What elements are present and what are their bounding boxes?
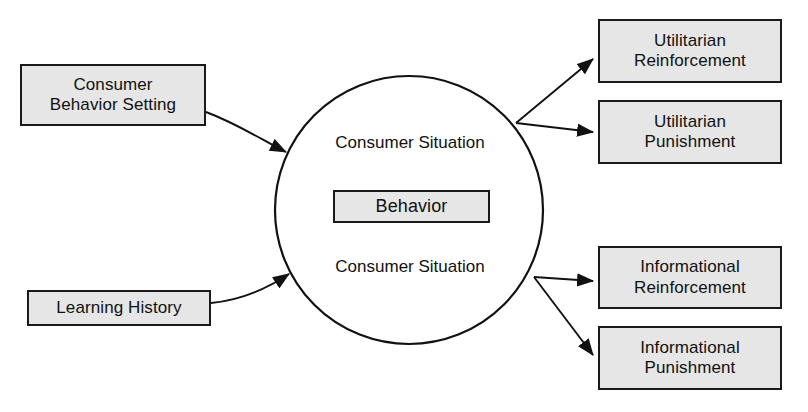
node-label: Informational Reinforcement [600,257,780,297]
node-label-line-1: Learning History [29,298,209,318]
node-label-line-1: Behavior [335,196,488,217]
node-label-line-2: Behavior Setting [22,95,204,115]
node-label-line-2: Reinforcement [600,278,780,298]
node-label-line-1: Informational [600,338,780,358]
edge-circle-to-informational-reinforcement [534,277,593,281]
node-label-line-2: Punishment [600,358,780,378]
node-label: Consumer Behavior Setting [22,75,204,115]
label-consumer-situation-bottom: Consumer Situation [300,257,520,277]
node-utilitarian-reinforcement[interactable]: Utilitarian Reinforcement [598,19,782,83]
node-label: Utilitarian Reinforcement [600,31,780,71]
node-label: Informational Punishment [600,338,780,378]
node-label-line-2: Reinforcement [600,51,780,71]
node-label-line-1: Consumer [22,75,204,95]
label-consumer-situation-top: Consumer Situation [300,133,520,153]
node-label-line-1: Informational [600,257,780,277]
node-informational-reinforcement[interactable]: Informational Reinforcement [598,246,782,309]
node-utilitarian-punishment[interactable]: Utilitarian Punishment [598,100,782,164]
edge-circle-to-informational-punishment [534,277,593,355]
diagram-canvas: Consumer Behavior Setting Learning Histo… [0,0,808,412]
node-behavior[interactable]: Behavior [333,190,490,223]
node-label-line-1: Utilitarian [600,31,780,51]
node-label: Behavior [335,196,488,217]
edge-circle-to-utilitarian-reinforcement [516,59,593,123]
node-label: Utilitarian Punishment [600,112,780,152]
node-label-line-2: Punishment [600,132,780,152]
edge-lh-to-circle [211,274,289,303]
node-label-line-1: Utilitarian [600,112,780,132]
node-informational-punishment[interactable]: Informational Punishment [598,326,782,390]
node-learning-history[interactable]: Learning History [27,290,211,326]
node-consumer-behavior-setting[interactable]: Consumer Behavior Setting [20,64,206,126]
edge-cbs-to-circle [206,112,286,152]
node-label: Learning History [29,298,209,318]
edge-circle-to-utilitarian-punishment [516,123,593,132]
